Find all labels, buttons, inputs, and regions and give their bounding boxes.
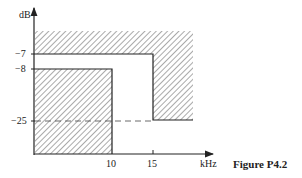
x-axis-label: kHz [200, 159, 217, 169]
x-tick-15: 15 [147, 159, 157, 169]
y-tick-minus25: −25 [11, 116, 27, 126]
y-tick-minus8: −8 [15, 64, 26, 74]
spec-mask-diagram [0, 0, 302, 178]
figure-caption: Figure P4.2 [233, 158, 287, 170]
x-tick-10: 10 [106, 159, 116, 169]
y-axis-label: dB [19, 10, 31, 20]
passband-forbidden-region [35, 69, 112, 154]
y-tick-minus7: −7 [15, 49, 26, 59]
